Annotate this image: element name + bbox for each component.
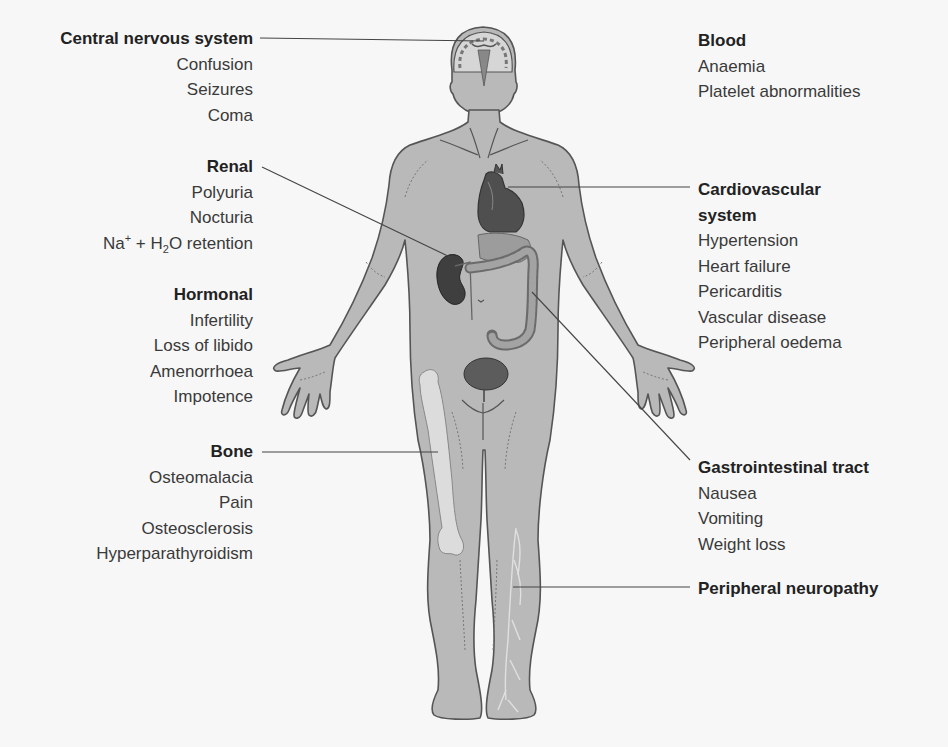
bone-item: Osteomalacia — [96, 465, 253, 491]
gi-item: Vomiting — [698, 506, 869, 532]
cardio-item: Hypertension — [698, 228, 842, 254]
bone-item: Osteosclerosis — [96, 516, 253, 542]
neuro-title: Peripheral neuropathy — [698, 576, 878, 602]
label-group-cns: Central nervous system Confusion Seizure… — [60, 26, 253, 128]
gi-item: Nausea — [698, 481, 869, 507]
leader-cns — [260, 38, 484, 41]
label-group-gastrointestinal: Gastrointestinal tract Nausea Vomiting W… — [698, 455, 869, 557]
cardio-title: system — [698, 203, 842, 229]
hormonal-item: Impotence — [150, 384, 253, 410]
renal-title: Renal — [103, 154, 253, 180]
renal-item-retention: Na+ + H2O retention — [103, 231, 253, 257]
cardio-item: Pericarditis — [698, 279, 842, 305]
blood-item: Anaemia — [698, 54, 861, 80]
bone-item: Hyperparathyroidism — [96, 541, 253, 567]
cardio-title: Cardiovascular — [698, 177, 842, 203]
label-group-blood: Blood Anaemia Platelet abnormalities — [698, 28, 861, 105]
renal-item: Nocturia — [103, 205, 253, 231]
renal-item: Polyuria — [103, 180, 253, 206]
hormonal-item: Infertility — [150, 308, 253, 334]
cardio-item: Heart failure — [698, 254, 842, 280]
cns-title: Central nervous system — [60, 26, 253, 52]
blood-title: Blood — [698, 28, 861, 54]
label-group-hormonal: Hormonal Infertility Loss of libido Amen… — [150, 282, 253, 410]
cns-item: Seizures — [60, 77, 253, 103]
label-group-renal: Renal Polyuria Nocturia Na+ + H2O retent… — [103, 154, 253, 256]
cns-item: Confusion — [60, 52, 253, 78]
blood-item: Platelet abnormalities — [698, 79, 861, 105]
bladder-icon — [464, 358, 508, 390]
hormonal-item: Loss of libido — [150, 333, 253, 359]
renal-failure-body-diagram: Central nervous system Confusion Seizure… — [0, 0, 948, 747]
hormonal-title: Hormonal — [150, 282, 253, 308]
cardio-item: Vascular disease — [698, 305, 842, 331]
label-group-neuropathy: Peripheral neuropathy — [698, 576, 878, 602]
bone-title: Bone — [96, 439, 253, 465]
cardio-item: Peripheral oedema — [698, 330, 842, 356]
bone-item: Pain — [96, 490, 253, 516]
gi-title: Gastrointestinal tract — [698, 455, 869, 481]
gi-item: Weight loss — [698, 532, 869, 558]
cns-item: Coma — [60, 103, 253, 129]
label-group-cardiovascular: Cardiovascular system Hypertension Heart… — [698, 177, 842, 356]
hormonal-item: Amenorrhoea — [150, 359, 253, 385]
label-group-bone: Bone Osteomalacia Pain Osteosclerosis Hy… — [96, 439, 253, 567]
